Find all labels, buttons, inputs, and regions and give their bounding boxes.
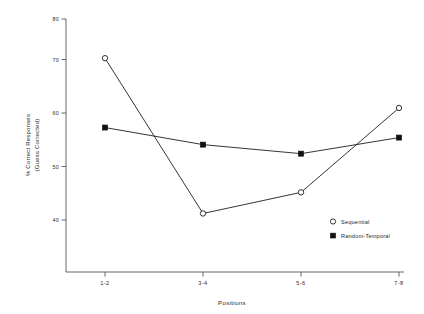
data-point-random-temporal-3-4 <box>201 142 206 147</box>
data-point-sequential-1-2 <box>102 55 107 60</box>
legend-marker-filled-square-icon <box>331 233 336 238</box>
x-tick-label-1: 1-2 <box>100 280 109 286</box>
line-chart-canvas: 80 70 60 50 40 1-2 3-4 5-6 7-8 Positions… <box>0 0 424 314</box>
legend-label-random-temporal: Random-Temporal <box>341 233 390 239</box>
y-axis-title-line2: (Guess Corrected) <box>34 119 40 172</box>
chart-legend: Sequential Random-Temporal <box>330 219 390 239</box>
y-axis-title-line1: % Correct Responses <box>25 114 31 176</box>
data-point-random-temporal-5-6 <box>299 151 304 156</box>
x-tick-label-3: 5-6 <box>296 280 305 286</box>
data-point-sequential-7-8 <box>396 105 401 110</box>
legend-marker-open-circle-icon <box>330 219 335 224</box>
y-axis-ticks: 80 70 60 50 40 <box>53 16 66 223</box>
data-point-sequential-3-4 <box>200 211 205 216</box>
x-axis-ticks: 1-2 3-4 5-6 7-8 <box>100 272 403 286</box>
series-markers-sequential <box>102 55 401 216</box>
y-tick-label-40: 40 <box>53 217 59 223</box>
data-point-sequential-5-6 <box>298 190 303 195</box>
y-tick-label-50: 50 <box>53 164 59 170</box>
data-point-random-temporal-7-8 <box>397 135 402 140</box>
y-tick-label-80: 80 <box>53 16 59 22</box>
series-markers-random-temporal <box>103 125 402 156</box>
x-tick-label-4: 7-8 <box>394 280 403 286</box>
y-tick-label-70: 70 <box>53 57 59 63</box>
x-tick-label-2: 3-4 <box>198 280 207 286</box>
series-line-random-temporal <box>105 128 399 154</box>
chart-figure: 80 70 60 50 40 1-2 3-4 5-6 7-8 Positions… <box>0 0 424 314</box>
x-axis-title: Positions <box>218 299 246 306</box>
legend-label-sequential: Sequential <box>341 219 369 225</box>
y-tick-label-60: 60 <box>53 110 59 116</box>
data-point-random-temporal-1-2 <box>103 125 108 130</box>
series-line-sequential <box>105 58 399 213</box>
